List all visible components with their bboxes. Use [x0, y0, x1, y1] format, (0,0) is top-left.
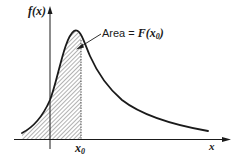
area-annotation-suffix: ) — [160, 26, 164, 40]
area-annotation-function-name: F(x — [138, 26, 156, 40]
y-axis-label: f(x) — [28, 4, 46, 19]
x0-label-subscript: 0 — [81, 147, 85, 156]
x-axis-arrow-icon — [222, 137, 231, 142]
area-annotation-equals: = — [128, 27, 134, 39]
x0-label: x0 — [75, 141, 85, 156]
shaded-area — [22, 31, 81, 139]
area-annotation-function: F(x0) — [138, 26, 164, 40]
y-axis-arrow-icon — [48, 6, 53, 14]
x-axis-label: x — [209, 140, 215, 152]
pdf-diagram — [0, 0, 238, 160]
area-annotation-prefix: Area — [102, 27, 125, 39]
area-annotation: Area=F(x0) — [102, 26, 164, 41]
